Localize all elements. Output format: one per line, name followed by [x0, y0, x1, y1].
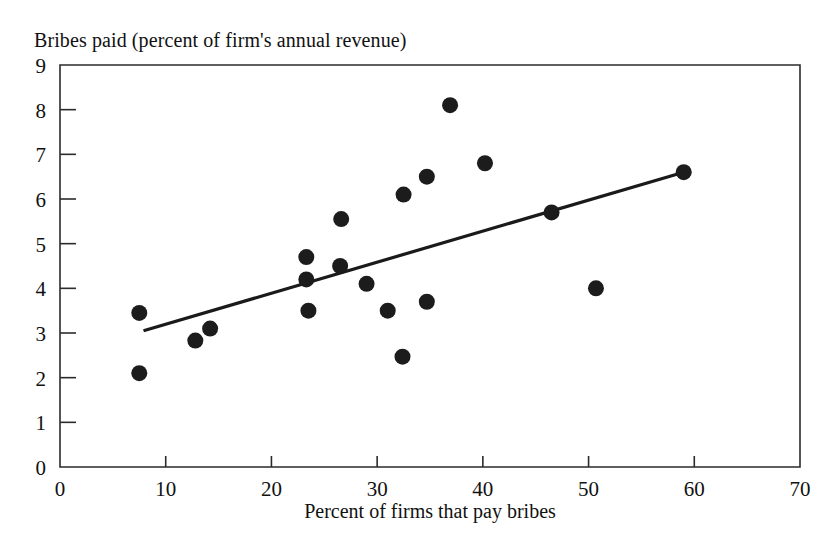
- x-tick-label-10: 10: [155, 477, 176, 501]
- x-tick-label-50: 50: [578, 477, 599, 501]
- y-axis-ticks: [60, 110, 76, 423]
- chart-figure: Bribes paid (percent of firm's annual re…: [0, 0, 828, 540]
- regression-line: [144, 172, 684, 331]
- x-tick-label-0: 0: [55, 477, 66, 501]
- x-axis-ticks: [166, 456, 695, 467]
- data-point-8: [333, 211, 349, 227]
- data-point-7: [332, 258, 348, 274]
- data-point-13: [419, 169, 435, 185]
- data-point-15: [442, 97, 458, 113]
- plot-border: [60, 65, 800, 467]
- scatter-plot-canvas: 010203040506070 0123456789 Percent of fi…: [0, 0, 828, 540]
- y-axis-tick-labels: 0123456789: [36, 54, 47, 480]
- data-point-1: [131, 365, 147, 381]
- y-tick-label-7: 7: [36, 143, 47, 167]
- trend-line: [144, 172, 684, 331]
- y-tick-label-6: 6: [36, 188, 47, 212]
- x-tick-label-20: 20: [261, 477, 282, 501]
- data-point-16: [477, 155, 493, 171]
- data-point-0: [131, 305, 147, 321]
- y-tick-label-9: 9: [36, 54, 47, 78]
- data-point-11: [395, 349, 411, 365]
- data-point-9: [359, 276, 375, 292]
- data-point-19: [676, 164, 692, 180]
- data-point-5: [298, 271, 314, 287]
- y-tick-label-8: 8: [36, 99, 47, 123]
- data-point-2: [187, 333, 203, 349]
- data-point-17: [544, 204, 560, 220]
- y-tick-label-3: 3: [36, 322, 47, 346]
- data-point-12: [396, 187, 412, 203]
- data-point-3: [202, 321, 218, 337]
- plot-frame: [60, 65, 800, 467]
- data-point-14: [419, 294, 435, 310]
- x-tick-label-40: 40: [472, 477, 493, 501]
- y-tick-label-2: 2: [36, 367, 47, 391]
- data-point-10: [380, 303, 396, 319]
- data-point-6: [300, 303, 316, 319]
- x-axis-tick-labels: 010203040506070: [55, 477, 811, 501]
- data-points: [131, 97, 691, 381]
- y-tick-label-4: 4: [36, 277, 47, 301]
- x-tick-label-30: 30: [367, 477, 388, 501]
- y-tick-label-1: 1: [36, 411, 47, 435]
- x-tick-label-60: 60: [684, 477, 705, 501]
- y-tick-label-0: 0: [36, 456, 47, 480]
- x-tick-label-70: 70: [790, 477, 811, 501]
- data-point-4: [298, 249, 314, 265]
- data-point-18: [588, 280, 604, 296]
- x-axis-title: Percent of firms that pay bribes: [304, 500, 556, 523]
- y-tick-label-5: 5: [36, 233, 47, 257]
